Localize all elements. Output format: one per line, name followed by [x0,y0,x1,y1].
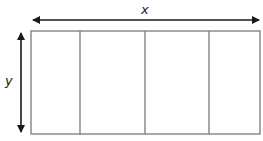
rectangle-dimension-diagram: x y [0,0,263,141]
x-label: x [140,2,149,17]
y-label: y [4,73,13,88]
